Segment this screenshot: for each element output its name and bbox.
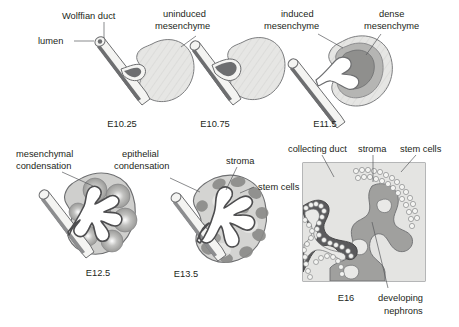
label-uninduced-mesenchyme-line1: uninduced [163, 9, 206, 19]
stage-label-e16: E16 [338, 293, 355, 303]
stage-label-e135: E13.5 [174, 269, 198, 279]
stage-label-e115: E11.5 [313, 119, 337, 129]
nephron-lumen-3 [344, 265, 359, 279]
stage-label-e125: E12.5 [86, 268, 110, 278]
label-lumen: lumen [38, 36, 63, 46]
nephron-lumen-1 [377, 199, 391, 213]
label-epithelial-condensation-line1: epithelial [122, 149, 159, 159]
label-stem-cells-e135: stem cells [258, 182, 300, 192]
label-mesenchymal-condensation-line2: condensation [16, 161, 71, 171]
label-induced-mesenchyme-line1: induced [281, 9, 314, 19]
label-stem-cells-e16: stem cells [400, 144, 442, 154]
label-developing-nephrons-line1: developing [378, 293, 423, 303]
label-wolffian-duct: Wolffian duct [62, 11, 116, 21]
label-developing-nephrons-line2: nephrons [384, 306, 423, 316]
label-stroma-e16: stroma [358, 144, 387, 154]
label-dense-mesenchyme-line1: dense [379, 9, 404, 19]
label-dense-mesenchyme-line2: mesenchyme [364, 21, 419, 31]
label-induced-mesenchyme-line2: mesenchyme [264, 21, 319, 31]
label-stroma-e135: stroma [226, 156, 255, 166]
label-mesenchymal-condensation-line1: mesenchymal [16, 149, 73, 159]
label-collecting-duct: collecting duct [288, 144, 347, 154]
label-epithelial-condensation-line2: condensation [114, 161, 169, 171]
stage-label-e1025: E10.25 [107, 119, 136, 129]
kidney-development-figure: Wolffian duct lumen uninduced mesenchyme… [0, 0, 459, 327]
label-uninduced-mesenchyme-line2: mesenchyme [155, 21, 210, 31]
stage-label-e1075: E10.75 [200, 119, 229, 129]
lumen-opening [98, 39, 102, 43]
